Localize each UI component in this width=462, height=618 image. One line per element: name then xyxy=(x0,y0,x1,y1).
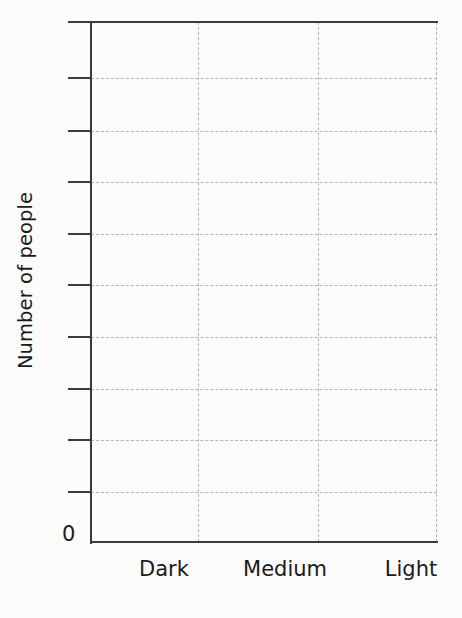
gridline-vertical xyxy=(318,22,319,542)
y-axis-tick xyxy=(68,439,92,441)
gridline-horizontal xyxy=(91,337,437,338)
gridline-vertical xyxy=(436,22,437,542)
y-axis-title-text: Number of people xyxy=(15,191,38,368)
y-axis-tick xyxy=(68,181,92,183)
y-axis-tick xyxy=(68,336,92,338)
gridline-horizontal xyxy=(91,492,437,493)
y-axis-tick xyxy=(68,21,92,23)
y-axis-title: Number of people xyxy=(0,0,52,560)
gridline-horizontal xyxy=(91,440,437,441)
gridline-horizontal xyxy=(91,389,437,390)
x-axis-label-light: Light xyxy=(385,556,437,582)
y-axis-tick xyxy=(68,77,92,79)
y-axis-tick xyxy=(68,388,92,390)
x-axis-label-medium: Medium xyxy=(243,556,327,582)
gridline-horizontal xyxy=(91,182,437,183)
y-axis-origin-label: 0 xyxy=(62,524,75,545)
y-axis-tick xyxy=(68,491,92,493)
y-axis-line xyxy=(90,21,92,544)
gridline-horizontal xyxy=(91,234,437,235)
plot-area xyxy=(91,22,437,542)
gridline-horizontal xyxy=(91,78,437,79)
y-axis-tick xyxy=(68,130,92,132)
x-axis-label-dark: Dark xyxy=(139,556,189,582)
x-axis-line xyxy=(90,541,438,543)
gridline-vertical xyxy=(198,22,199,542)
y-axis-tick xyxy=(68,284,92,286)
y-axis-tick xyxy=(68,233,92,235)
gridline-horizontal xyxy=(91,131,437,132)
axis-top-rule xyxy=(91,21,438,23)
gridline-horizontal xyxy=(91,285,437,286)
chart-container: Number of people 0 Dark Medium Light xyxy=(0,0,462,618)
